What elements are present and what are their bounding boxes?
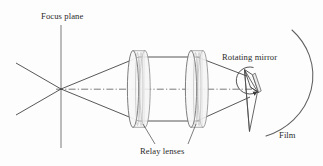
label-rotating-mirror: Rotating mirror bbox=[222, 53, 277, 62]
diagram-canvas bbox=[0, 0, 323, 166]
label-film: Film bbox=[279, 131, 296, 140]
film-arc bbox=[266, 30, 313, 136]
label-relay-lenses: Relay lenses bbox=[140, 147, 184, 156]
relay-lens-1 bbox=[127, 51, 150, 128]
object-side-rays bbox=[16, 63, 61, 115]
label-focus-plane: Focus plane bbox=[41, 12, 83, 21]
relay-lenses-leaders bbox=[143, 124, 196, 144]
rotating-mirror bbox=[245, 70, 262, 132]
optical-diagram-figure: Focus plane Rotating mirror Relay lenses… bbox=[0, 0, 323, 166]
relay-lens-2 bbox=[185, 51, 208, 128]
